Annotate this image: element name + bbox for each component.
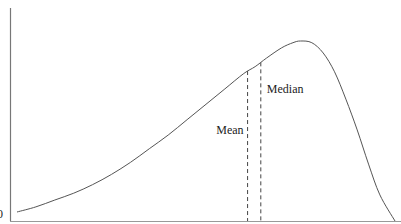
skewed-distribution-chart: 0 MeanMedian xyxy=(0,0,401,224)
y-zero-tick-label: 0 xyxy=(0,207,3,221)
median-label: Median xyxy=(267,82,304,96)
mean-label: Mean xyxy=(216,123,243,137)
density-curve xyxy=(17,41,395,221)
